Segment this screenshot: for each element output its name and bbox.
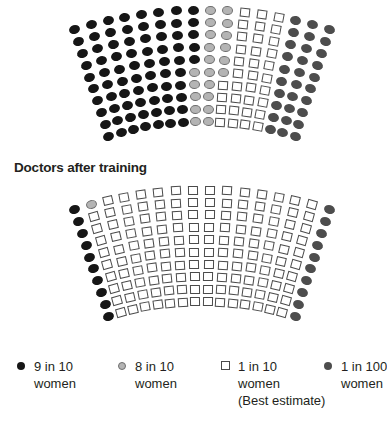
- black-dot-icon: [88, 31, 101, 43]
- square-icon: [230, 94, 241, 104]
- black-dot-icon: [121, 24, 133, 35]
- square-icon: [271, 204, 282, 215]
- square-icon: [271, 24, 282, 35]
- dark-dot-icon: [303, 31, 316, 43]
- square-icon: [163, 286, 174, 296]
- square-icon: [150, 287, 161, 297]
- dark-dot-icon: [276, 127, 289, 139]
- black-dot-icon: [76, 228, 89, 240]
- square-icon: [239, 7, 250, 17]
- square-icon: [95, 235, 107, 246]
- square-icon: [203, 285, 213, 294]
- black-dot-icon: [137, 109, 149, 120]
- black-dot-icon: [113, 63, 126, 74]
- black-dot-icon: [188, 5, 199, 14]
- black-dot-icon: [102, 15, 115, 26]
- square-icon: [257, 277, 268, 288]
- square-icon: [293, 247, 305, 258]
- gray-dot-icon: [221, 31, 233, 41]
- square-icon: [216, 285, 227, 295]
- square-icon: [242, 287, 253, 297]
- square-icon: [276, 307, 288, 318]
- square-icon: [218, 248, 229, 258]
- square-icon: [268, 216, 279, 227]
- black-dot-icon: [99, 298, 112, 310]
- square-icon: [217, 260, 228, 270]
- square-icon: [171, 198, 182, 208]
- dark-dot-icon: [264, 124, 277, 135]
- dark-dot-icon: [273, 88, 286, 99]
- square-icon: [139, 302, 150, 313]
- black-dot-icon: [153, 7, 165, 17]
- black-dot-icon: [87, 83, 100, 95]
- black-dot-icon: [95, 55, 108, 67]
- black-dot-icon: [189, 55, 200, 64]
- square-icon: [121, 204, 132, 215]
- gray-dot-icon: [219, 55, 231, 65]
- black-dot-icon: [175, 80, 187, 90]
- black-dot-icon: [68, 24, 81, 36]
- gray-dot-icon: [85, 199, 98, 211]
- square-icon: [257, 97, 268, 108]
- square-icon: [88, 211, 100, 222]
- square-icon: [235, 224, 246, 234]
- black-dot-icon: [110, 51, 123, 62]
- black-dot-icon: [119, 12, 131, 23]
- square-icon: [240, 120, 251, 130]
- square-icon: [287, 207, 299, 218]
- square-icon: [157, 224, 168, 234]
- black-dot-icon: [172, 31, 184, 41]
- dark-dot-icon: [296, 287, 309, 299]
- square-icon: [156, 212, 167, 222]
- dark-dot-icon: [306, 19, 319, 31]
- legend-label: 8 in 10: [135, 358, 177, 375]
- square-icon: [189, 235, 199, 244]
- square-icon: [238, 20, 249, 30]
- dark-dot-icon: [300, 275, 313, 287]
- black-dot-icon: [85, 19, 98, 31]
- black-dot-icon: [173, 43, 185, 53]
- square-icon: [123, 216, 134, 227]
- square-icon: [107, 219, 119, 230]
- dark-dot-icon: [304, 263, 317, 275]
- square-icon: [266, 48, 277, 59]
- square-icon: [124, 292, 136, 303]
- legend-sublabel: women: [34, 375, 76, 392]
- black-dot-icon: [138, 21, 150, 31]
- square-icon: [204, 247, 214, 256]
- black-dot-icon: [126, 48, 138, 59]
- square-icon: [189, 260, 199, 269]
- square-icon: [119, 192, 130, 203]
- square-icon: [242, 107, 253, 117]
- black-dot-icon: [188, 30, 199, 39]
- black-dot-icon: [177, 105, 189, 115]
- square-icon: [102, 195, 114, 206]
- square-icon: [174, 248, 185, 258]
- square-icon: [254, 109, 265, 120]
- square-icon: [281, 231, 293, 242]
- square-icon: [278, 244, 290, 255]
- square-icon: [228, 118, 239, 128]
- square-icon: [261, 253, 272, 264]
- square-icon: [237, 32, 248, 42]
- dark-dot-icon: [307, 251, 320, 263]
- legend: 9 in 10 women 8 in 10 women 1 in 10 wome…: [0, 358, 387, 425]
- square-icon: [261, 73, 272, 84]
- square-icon: [161, 261, 172, 271]
- square-icon: [177, 297, 188, 307]
- square-icon: [145, 251, 156, 261]
- black-dot-icon: [163, 106, 175, 116]
- square-icon: [243, 275, 254, 285]
- dark-dot-icon: [323, 204, 336, 216]
- black-dot-icon: [147, 83, 159, 93]
- square-icon: [188, 185, 198, 194]
- square-icon: [252, 302, 263, 313]
- square-icon: [221, 211, 232, 221]
- square-icon: [245, 83, 256, 93]
- square-icon: [152, 300, 163, 310]
- square-icon: [221, 361, 230, 370]
- black-dot-icon: [136, 9, 148, 19]
- black-dot-icon: [150, 107, 162, 117]
- black-dot-icon: [148, 95, 160, 105]
- square-icon: [273, 12, 284, 23]
